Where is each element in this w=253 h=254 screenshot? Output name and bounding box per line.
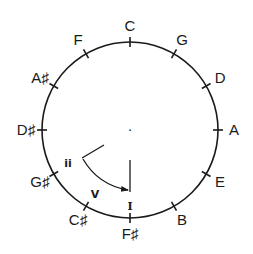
tick-mark — [172, 49, 177, 58]
note-label: A — [229, 121, 239, 138]
tick-mark — [49, 172, 58, 177]
tick-mark — [202, 84, 211, 89]
note-label: C♯ — [69, 211, 88, 228]
note-label: D — [215, 69, 226, 86]
tick-mark — [49, 84, 58, 89]
center-dot: · — [128, 121, 133, 137]
note-label: G — [176, 31, 188, 48]
label-i: I — [127, 200, 132, 213]
note-label: G♯ — [30, 173, 50, 190]
ii-pointer-line — [82, 145, 104, 158]
tick-mark — [172, 202, 177, 211]
progression-arrow — [83, 159, 128, 190]
tick-mark — [84, 202, 89, 211]
note-label: A♯ — [31, 69, 49, 86]
label-v: V — [91, 188, 100, 201]
tick-mark — [84, 49, 89, 58]
note-label: C — [125, 17, 136, 34]
label-ii: ii — [64, 157, 72, 170]
note-label: E — [215, 173, 225, 190]
note-label: B — [177, 211, 187, 228]
note-label: D♯ — [17, 121, 36, 138]
tick-mark — [202, 172, 211, 177]
circle-of-fifths-diagram: CGDAEBF♯C♯G♯D♯A♯F · ii V I — [0, 0, 253, 254]
note-label: F♯ — [122, 225, 139, 242]
note-label: F — [73, 31, 82, 48]
